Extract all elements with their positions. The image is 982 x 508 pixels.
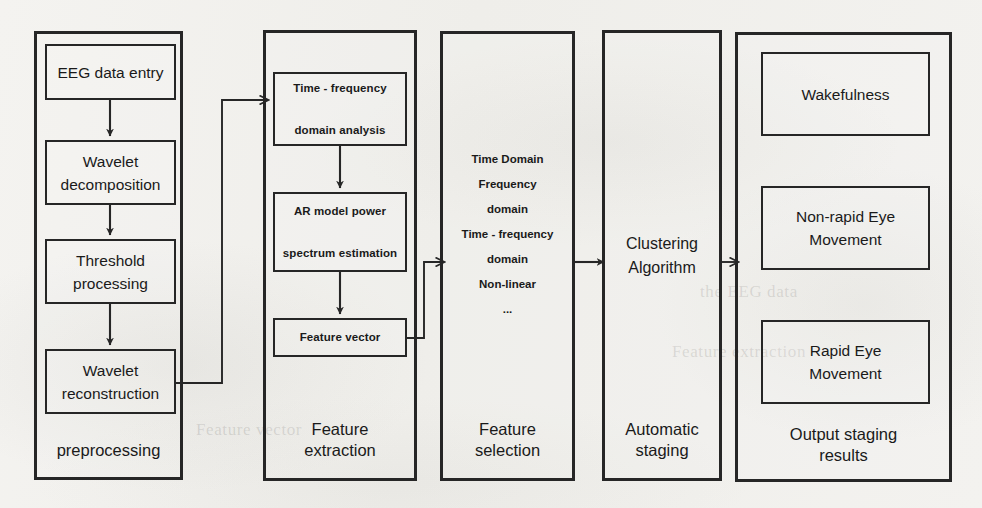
node-threshold-processing[interactable]: Threshold processing [45,239,176,304]
node-label: Wavelet reconstruction [58,359,163,405]
node-label-line2: decomposition [61,176,161,193]
feature-item: Time Domain [440,147,575,172]
node-label: Feature vector [296,327,385,348]
node-label: Time - frequency domain analysis [289,78,390,141]
stage-label-line1: Automatic [625,420,698,438]
stage-label-line2: staging [635,441,688,459]
node-time-frequency-domain-analysis[interactable]: Time - frequency domain analysis [273,72,407,146]
node-label-line2: domain analysis [295,124,386,136]
node-label-line2: processing [73,275,148,292]
stage-label-feature-selection: Feature selection [440,419,575,461]
node-label-line1: Rapid Eye [810,342,882,359]
node-ar-model-power-spectrum[interactable]: AR model power spectrum estimation [273,192,407,272]
feature-item: Frequency [440,172,575,197]
stage-label-preprocessing: preprocessing [34,440,183,461]
node-label-line1: Threshold [76,252,145,269]
feature-item: Non-linear [440,272,575,297]
stage-label-line2: selection [475,441,540,459]
node-wavelet-reconstruction[interactable]: Wavelet reconstruction [45,349,176,414]
node-label: EEG data entry [54,61,168,84]
node-label-line2: Movement [809,231,881,248]
node-label: Threshold processing [69,249,152,295]
stage-label-output-staging-results: Output staging results [735,424,952,466]
clustering-algorithm-line2: Algorithm [628,259,696,276]
feature-item: domain [440,197,575,222]
feature-item: Time - frequency [440,222,575,247]
stage-label-automatic-staging: Automatic staging [602,419,722,461]
node-wavelet-decomposition[interactable]: Wavelet decomposition [45,140,176,205]
node-label-line2: spectrum estimation [283,247,397,259]
feature-item-ellipsis: ... [440,297,575,322]
stage-label-feature-extraction: Feature extraction [263,419,417,461]
feature-item: domain [440,247,575,272]
node-feature-vector[interactable]: Feature vector [273,318,407,357]
node-label-line1: Non-rapid Eye [796,208,895,225]
stage-label-line1: Output staging [790,425,897,443]
node-label-line1: Wavelet [83,362,138,379]
node-label: AR model power spectrum estimation [279,201,401,264]
node-label-line1: Wavelet [83,153,138,170]
node-rapid-eye-movement[interactable]: Rapid Eye Movement [761,320,930,404]
node-non-rapid-eye-movement[interactable]: Non-rapid Eye Movement [761,186,930,270]
clustering-algorithm-label: Clustering Algorithm [602,232,722,280]
arrow-preprocessing-to-feature-extraction [176,100,268,383]
node-wakefulness[interactable]: Wakefulness [761,52,930,136]
feature-selection-list: Time Domain Frequency domain Time - freq… [440,147,575,322]
node-label: Non-rapid Eye Movement [792,205,899,251]
stage-label-line2: results [819,446,868,464]
stage-label-line1: Feature [479,420,536,438]
flowchart-canvas: the EEG data Feature extraction Feature … [0,0,982,508]
node-label: Wavelet decomposition [57,150,165,196]
node-eeg-data-entry[interactable]: EEG data entry [45,44,176,100]
node-label-line2: reconstruction [62,385,159,402]
node-label-line1: Time - frequency [293,82,386,94]
node-label-line1: AR model power [294,205,386,217]
stage-label-line2: extraction [304,441,376,459]
stage-label-line1: Feature [312,420,369,438]
node-label: Wakefulness [797,83,893,106]
node-label: Rapid Eye Movement [805,339,885,385]
node-label-line2: Movement [809,365,881,382]
clustering-algorithm-line1: Clustering [626,235,698,252]
